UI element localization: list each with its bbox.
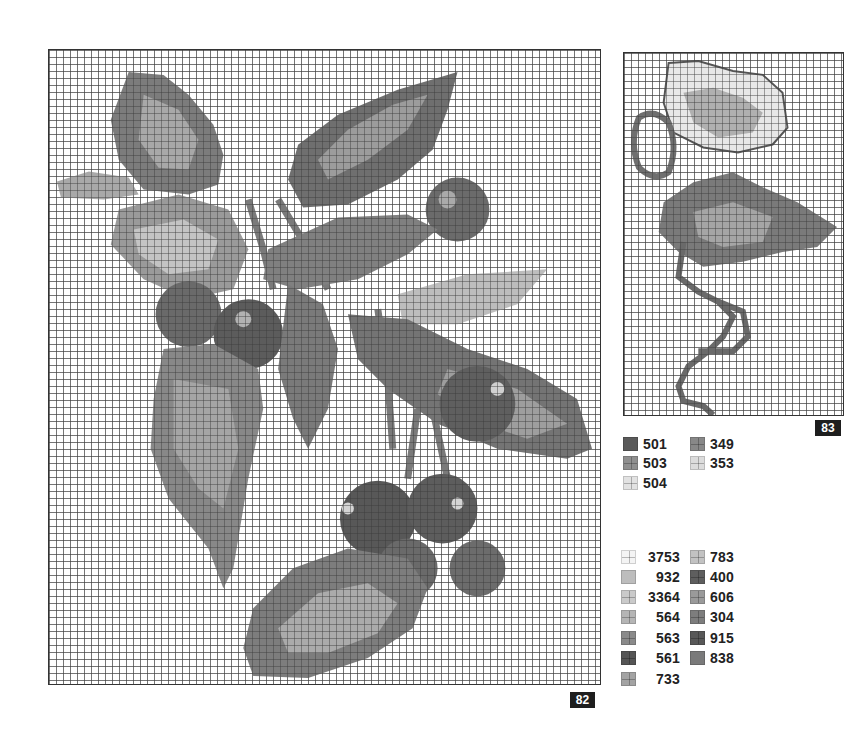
key-item-915: 915 xyxy=(690,630,734,646)
swatch-icon xyxy=(690,570,705,584)
key-item-606: 606 xyxy=(690,589,734,605)
cross-stitch-chart-sprig xyxy=(623,52,844,416)
key-item-3364: 3364 xyxy=(621,589,680,605)
swatch-icon xyxy=(621,550,636,564)
key-item-349: 349 xyxy=(690,436,734,452)
key-item-564: 564 xyxy=(621,609,680,625)
key-item-503: 503 xyxy=(623,455,667,471)
swatch-icon xyxy=(621,570,636,584)
swatch-icon xyxy=(621,672,636,686)
key-item-783: 783 xyxy=(690,549,734,565)
swatch-icon xyxy=(690,631,705,645)
key-item-561: 561 xyxy=(621,650,680,666)
key-item-504: 504 xyxy=(623,475,667,491)
swatch-icon xyxy=(690,550,705,564)
key-item-733: 733 xyxy=(621,671,680,687)
key-item-304: 304 xyxy=(690,609,734,625)
swatch-icon xyxy=(621,590,636,604)
swatch-icon xyxy=(621,631,636,645)
swatch-icon xyxy=(623,456,638,470)
swatch-icon xyxy=(623,476,638,490)
cross-stitch-chart-cherries xyxy=(48,49,601,685)
page-number-badge: 82 xyxy=(570,692,595,708)
swatch-icon xyxy=(690,456,705,470)
swatch-icon xyxy=(623,437,638,451)
key-item-563: 563 xyxy=(621,630,680,646)
key-item-3753: 3753 xyxy=(621,549,680,565)
flower-sprig-motif xyxy=(624,53,843,415)
swatch-icon xyxy=(621,651,636,665)
key-item-838: 838 xyxy=(690,650,734,666)
swatch-icon xyxy=(690,437,705,451)
swatch-icon xyxy=(690,610,705,624)
cherry-branch-motif xyxy=(49,50,600,684)
key-item-932: 932 xyxy=(621,569,680,585)
key-item-353: 353 xyxy=(690,455,734,471)
swatch-icon xyxy=(690,590,705,604)
swatch-icon xyxy=(621,610,636,624)
swatch-icon xyxy=(690,651,705,665)
key-item-501: 501 xyxy=(623,436,667,452)
page-number-badge: 83 xyxy=(815,420,841,436)
key-item-400: 400 xyxy=(690,569,734,585)
